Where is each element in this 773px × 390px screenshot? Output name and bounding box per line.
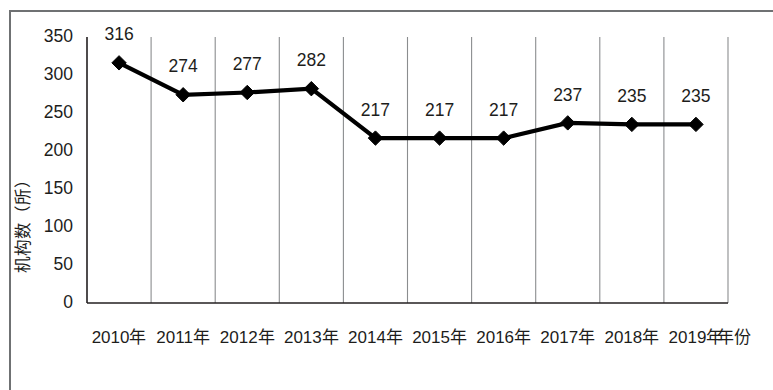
data-point-label: 282 [297, 50, 326, 70]
data-point-marker [561, 116, 575, 130]
line-chart: 050100150200250300350 2010年2011年2012年201… [0, 0, 773, 390]
x-tick-label: 2018年 [604, 328, 659, 347]
y-tick-label: 250 [44, 102, 73, 122]
data-point-marker [112, 56, 126, 70]
x-tick-label: 2019年 [669, 328, 724, 347]
x-tick-labels-group: 2010年2011年2012年2013年2014年2015年2016年2017年… [92, 328, 724, 347]
y-tick-label: 150 [44, 178, 73, 198]
y-tick-label: 300 [44, 64, 73, 84]
data-point-marker [432, 131, 446, 145]
data-point-label: 235 [617, 86, 646, 106]
data-point-label: 237 [553, 85, 582, 105]
y-tick-label: 100 [44, 216, 73, 236]
data-point-label: 235 [681, 86, 710, 106]
data-point-marker [176, 88, 190, 102]
data-point-marker [496, 131, 510, 145]
x-tick-label: 2013年 [284, 328, 339, 347]
data-point-marker [240, 85, 254, 99]
x-tick-label: 2011年 [156, 328, 210, 347]
y-tick-label: 50 [54, 254, 74, 274]
x-tick-label: 2014年 [348, 328, 403, 347]
data-point-label: 277 [233, 54, 262, 74]
x-axis-title: 年份 [717, 328, 751, 347]
chart-figure: 050100150200250300350 2010年2011年2012年201… [0, 0, 773, 390]
data-point-label: 274 [169, 56, 198, 76]
y-axis-title: 机构数（所） [14, 171, 32, 273]
x-tick-label: 2015年 [412, 328, 467, 347]
y-tick-label: 350 [44, 26, 73, 46]
y-tick-label: 0 [63, 292, 73, 312]
x-tick-label: 2017年 [540, 328, 595, 347]
y-tick-label: 200 [44, 140, 73, 160]
data-point-marker [689, 117, 703, 131]
x-tick-label: 2010年 [92, 328, 147, 347]
gridlines-group [151, 37, 728, 303]
data-point-label: 316 [104, 24, 133, 44]
data-point-label: 217 [489, 100, 518, 120]
y-tick-labels-group: 050100150200250300350 [44, 26, 73, 312]
x-tick-label: 2016年 [476, 328, 531, 347]
x-tick-label: 2012年 [220, 328, 275, 347]
data-point-marker [625, 117, 639, 131]
data-point-label: 217 [361, 100, 390, 120]
data-point-label: 217 [425, 100, 454, 120]
